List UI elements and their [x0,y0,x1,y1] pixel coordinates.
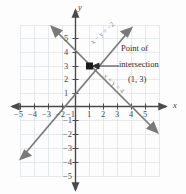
y-tick-label-neg4: −4 [63,158,72,167]
y-tick-label-2: 2 [64,75,68,84]
axes [12,10,166,190]
x-tick-label-neg3: −3 [42,110,51,119]
x-tick-label-1: 1 [87,110,91,119]
x-tick-label-3: 3 [115,110,119,119]
y-tick-label-neg5: −5 [63,172,72,181]
x-tick-label-2: 2 [101,110,105,119]
coordinate-plane-svg [0,0,186,194]
y-tick-label-3: 3 [64,62,68,71]
y-tick-label-4: 4 [64,48,68,57]
x-tick-label-neg4: −4 [28,110,37,119]
graph-figure: −5 −4 −3 −2 −1 1 2 3 4 5 5 4 3 2 1 −1 −2… [0,0,186,194]
annotation-line-1: Point of [121,44,148,53]
y-tick-label-5: 5 [64,34,68,43]
x-axis-label: x [173,101,177,110]
annotation-line-2: intersection [119,60,159,69]
x-tick-label-5: 5 [143,110,147,119]
y-tick-label-neg3: −3 [63,144,72,153]
y-axis-label: y [78,3,82,12]
y-axis-arrow-down [73,183,79,190]
annotation-point-coords: (1, 3) [128,75,146,84]
x-axis-arrow-right [159,104,166,110]
annotation-leader-arrow [93,63,120,69]
x-tick-label-neg5: −5 [14,110,23,119]
y-tick-label-neg2: −2 [63,130,72,139]
y-tick-label-neg1: −1 [63,116,72,125]
x-tick-label-4: 4 [129,110,133,119]
y-tick-label-1: 1 [64,89,68,98]
